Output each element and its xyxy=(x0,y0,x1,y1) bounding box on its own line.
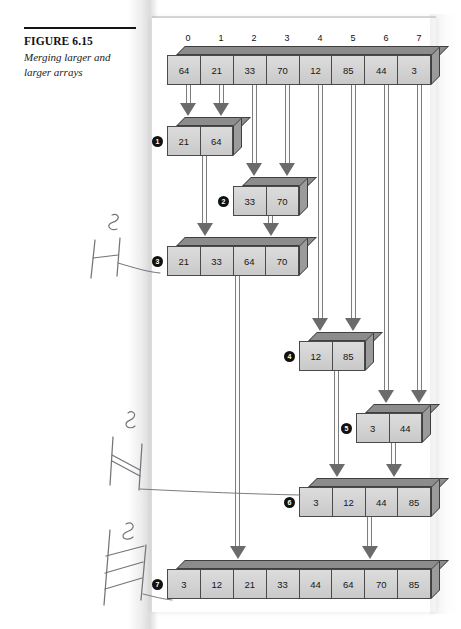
page-top-edge xyxy=(152,16,436,18)
merge-arrow-shaft xyxy=(367,517,372,546)
merge-arrow-shaft xyxy=(334,371,339,464)
array-cell: 21 xyxy=(168,127,201,155)
array-cell: 21 xyxy=(168,247,201,275)
array-front-face: 1285 xyxy=(299,341,365,371)
merge-arrow-shaft xyxy=(219,85,224,103)
array-cell: 64 xyxy=(234,247,267,275)
array-side-face xyxy=(299,237,308,276)
pencil-digit-3 xyxy=(109,214,118,229)
array-cell: 12 xyxy=(300,56,333,84)
array-side-face xyxy=(431,46,440,85)
step-array-4: 1285 xyxy=(299,332,374,371)
array-front-face: 344 xyxy=(356,413,422,443)
step-array-2: 3370 xyxy=(233,177,308,216)
merge-arrow-shaft xyxy=(351,85,356,318)
array-cell: 85 xyxy=(333,342,365,370)
merge-arrow-head xyxy=(378,390,394,403)
step-marker-1: 1 xyxy=(152,136,163,147)
step-array-3: 21336470 xyxy=(167,237,308,276)
merge-arrow-head xyxy=(312,318,328,331)
array-index-label: 3 xyxy=(279,33,295,43)
array-index-label: 7 xyxy=(411,33,427,43)
step-marker-7: 7 xyxy=(152,579,163,590)
merge-arrow-shaft xyxy=(417,85,422,390)
merge-arrow-head xyxy=(263,223,279,236)
merge-arrow-shaft xyxy=(391,443,396,464)
merge-arrow-head xyxy=(180,103,196,116)
array-front-face: 312213344647085 xyxy=(167,569,431,599)
array-cell: 85 xyxy=(398,488,430,516)
step-array-7: 312213344647085 xyxy=(167,560,440,599)
figure-page: FIGURE 6.15 Merging larger and larger ar… xyxy=(0,0,461,629)
merge-arrow-head xyxy=(213,103,229,116)
step-marker-5: 5 xyxy=(341,423,352,434)
array-index-label: 1 xyxy=(213,33,229,43)
step-marker-6: 6 xyxy=(284,497,295,508)
array-cell: 70 xyxy=(266,247,298,275)
array-top-face xyxy=(308,478,449,487)
array-front-face: 21336470 xyxy=(167,246,299,276)
figure-caption-text: Merging larger and larger arrays xyxy=(24,50,136,79)
array-cell: 70 xyxy=(267,56,300,84)
array-cell: 21 xyxy=(201,56,234,84)
array-cell: 70 xyxy=(365,570,398,598)
merge-arrow-head xyxy=(411,390,427,403)
array-cell: 44 xyxy=(390,414,422,442)
array-front-face: 2164 xyxy=(167,126,233,156)
array-cell: 3 xyxy=(398,56,430,84)
array-side-face xyxy=(365,332,374,371)
array-side-face xyxy=(422,404,431,443)
step-marker-3: 3 xyxy=(152,256,163,267)
array-index-label: 4 xyxy=(312,33,328,43)
array-index-label: 6 xyxy=(378,33,394,43)
array-cell: 64 xyxy=(332,570,365,598)
array-top-face xyxy=(176,237,317,246)
array-cell: 12 xyxy=(300,342,333,370)
array-cell: 3 xyxy=(168,570,201,598)
array-side-face xyxy=(299,177,308,216)
caption-rule xyxy=(24,27,136,29)
array-top-face xyxy=(176,560,449,569)
array-cell: 64 xyxy=(168,56,201,84)
array-cell: 44 xyxy=(300,570,333,598)
merge-arrow-shaft xyxy=(186,85,191,103)
figure-caption-block: FIGURE 6.15 Merging larger and larger ar… xyxy=(24,27,136,79)
merge-arrow-head xyxy=(230,546,246,559)
merge-arrow-shaft xyxy=(235,276,240,546)
array-front-face: 3370 xyxy=(233,186,299,216)
merge-arrow-shaft xyxy=(285,85,290,163)
merge-arrow-shaft xyxy=(252,85,257,163)
array-cell: 33 xyxy=(234,56,267,84)
merge-arrow-head xyxy=(246,163,262,176)
array-cell: 64 xyxy=(201,127,233,155)
step-marker-2: 2 xyxy=(218,196,229,207)
array-cell: 44 xyxy=(366,488,399,516)
merge-arrow-head xyxy=(197,223,213,236)
merge-arrow-shaft xyxy=(318,85,323,318)
array-top-face xyxy=(176,46,449,55)
merge-arrow-head xyxy=(345,318,361,331)
source-array: 642133701285443 xyxy=(167,46,440,85)
array-cell: 21 xyxy=(234,570,267,598)
array-cell: 3 xyxy=(300,488,333,516)
merge-arrow-head xyxy=(386,464,402,477)
array-index-label: 5 xyxy=(345,33,361,43)
array-index-label: 0 xyxy=(180,33,196,43)
array-index-label: 2 xyxy=(246,33,262,43)
array-cell: 85 xyxy=(332,56,365,84)
array-cell: 12 xyxy=(333,488,366,516)
step-array-6: 3124485 xyxy=(299,478,440,517)
step-array-5: 344 xyxy=(356,404,431,443)
merge-arrow-shaft xyxy=(384,85,389,390)
array-side-face xyxy=(431,478,440,517)
array-front-face: 3124485 xyxy=(299,487,431,517)
array-cell: 70 xyxy=(267,187,299,215)
array-cell: 12 xyxy=(201,570,234,598)
array-cell: 3 xyxy=(357,414,390,442)
array-cell: 85 xyxy=(398,570,430,598)
array-front-face: 642133701285443 xyxy=(167,55,431,85)
merge-arrow-shaft xyxy=(202,156,207,223)
merge-arrow-head xyxy=(329,464,345,477)
page-right-shadow xyxy=(430,14,461,614)
merge-arrow-head xyxy=(362,546,378,559)
